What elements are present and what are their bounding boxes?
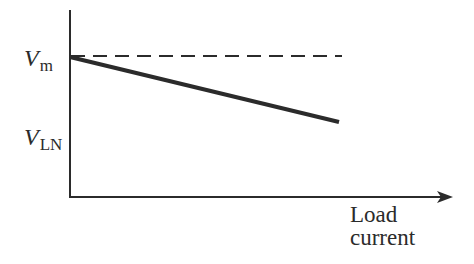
vm-label: Vm bbox=[24, 46, 53, 70]
vm-label-sub: m bbox=[40, 56, 53, 75]
x-axis-label-line2: current bbox=[350, 226, 415, 249]
x-axis-label-line1: Load bbox=[350, 203, 415, 226]
voltage-drop-line bbox=[70, 57, 339, 122]
vln-label: VLN bbox=[24, 125, 62, 149]
vm-label-main: V bbox=[24, 45, 39, 71]
vln-label-sub: LN bbox=[40, 135, 63, 154]
vln-label-main: V bbox=[24, 124, 39, 150]
x-axis-label: Load current bbox=[350, 203, 415, 249]
